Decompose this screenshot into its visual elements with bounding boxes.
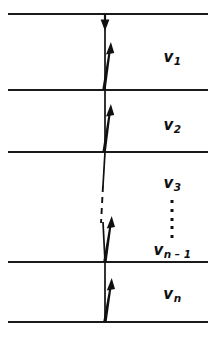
incident-ray-down-arrow (101, 14, 110, 31)
label-vn-base: v (163, 285, 173, 303)
label-vn-minus-1-base: v (153, 241, 163, 259)
ray-segment-continuation-dashed (101, 186, 103, 223)
label-v1: v1 (163, 50, 180, 65)
ray-layer-1-arrow (102, 42, 114, 90)
label-vn-minus-1: vn – 1 (153, 243, 190, 258)
ray-diagram-figure: v1 v2 v3 vn – 1 vn (0, 0, 216, 340)
ellipsis-dot (171, 209, 174, 212)
label-v1-base: v (163, 48, 173, 66)
ray-trunk-group (101, 14, 105, 322)
label-v3: v3 (163, 176, 180, 191)
ray-layer-1-shaft (102, 51, 110, 90)
label-v3-subscript: 3 (174, 181, 181, 193)
incident-ray-down-head (101, 20, 110, 32)
ray-layer-n-1-arrow (103, 216, 115, 262)
label-vn-minus-1-subscript: n – 1 (164, 248, 191, 260)
ellipsis-dot (171, 218, 174, 221)
ray-layer-n-head (107, 278, 115, 291)
label-vn-subscript: n (174, 292, 181, 304)
ray-segment-layer-3-solid (103, 152, 105, 186)
label-v3-base: v (163, 174, 173, 192)
ellipsis-dot (171, 226, 174, 229)
ray-layer-n-1-head (107, 216, 115, 229)
label-v2: v2 (163, 118, 180, 133)
ellipsis-dot (171, 235, 174, 238)
diagram-canvas (0, 0, 216, 340)
ray-layer-1-head (106, 42, 114, 55)
ray-layer-2-head (106, 104, 114, 117)
ellipsis-dot (171, 200, 174, 203)
label-v2-subscript: 2 (174, 123, 181, 135)
vertical-ellipsis (171, 200, 174, 238)
ray-layer-2-shaft (102, 113, 110, 152)
label-v1-subscript: 1 (174, 55, 181, 67)
label-v2-base: v (163, 116, 173, 134)
label-vn: vn (163, 287, 180, 302)
